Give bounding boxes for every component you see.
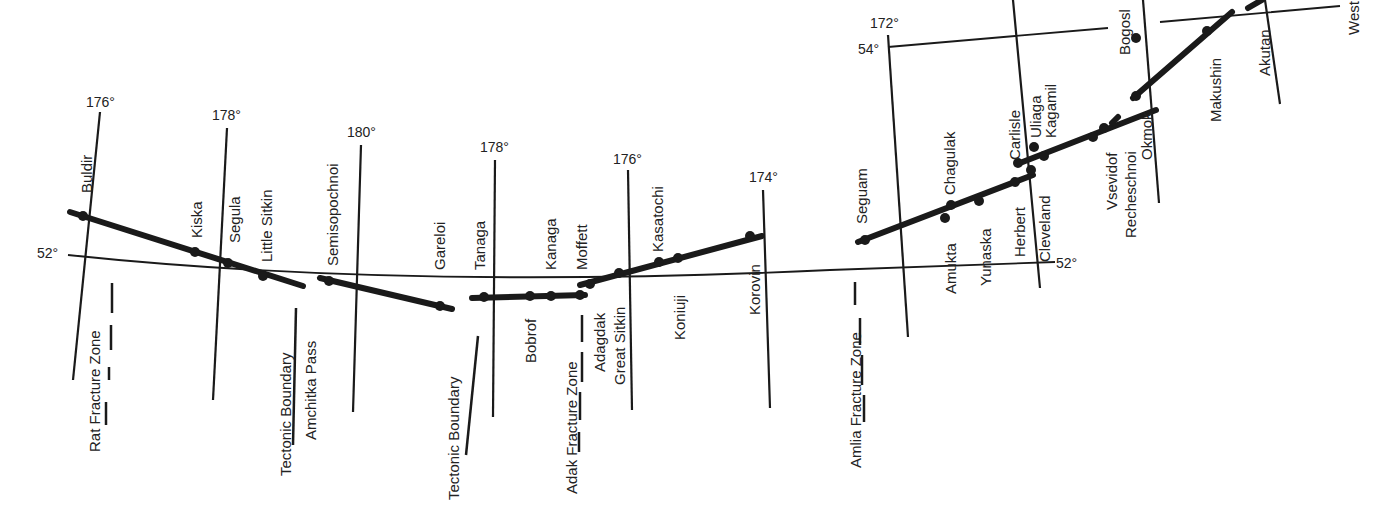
island-bogoslof: Bogosl: [1116, 9, 1133, 55]
island-makushin: Makushin: [1207, 58, 1224, 122]
island-okmok: Okmok: [1138, 112, 1155, 160]
island-carlisle: Carlisle: [1006, 110, 1023, 160]
svg-text:Tectonic Boundary: Tectonic Boundary: [277, 352, 294, 476]
island-moffett: Moffett: [573, 224, 590, 270]
island-vsevidof: Vsevidof: [1103, 152, 1120, 210]
aleutian-map: 176° 178° 180° 178° 176° 174° 172° 52° 5…: [0, 0, 1392, 521]
island-little-sitkin: Little Sitkin: [258, 189, 275, 262]
meridian-176e: [628, 170, 632, 410]
tectonic-boundary-adak: Tectonic Boundary: [445, 336, 478, 500]
arc-segment-delarof: [320, 278, 452, 309]
svg-text:Rat Fracture Zone: Rat Fracture Zone: [86, 330, 103, 452]
meridian-174e: [763, 190, 770, 408]
island-seguam: Seguam: [853, 168, 870, 224]
island-akutan: Akutan: [1256, 29, 1273, 76]
island-buldir: Buldir: [78, 155, 95, 193]
island-herbert: Herbert: [1011, 206, 1028, 257]
lat-label-54: 54°: [858, 41, 879, 57]
arc-dash: [1112, 117, 1118, 123]
tectonic-boundary-amchitka: Tectonic Boundary: [277, 308, 296, 476]
island-korovin: Korovin: [746, 264, 763, 315]
lat-label-52-west: 52°: [37, 245, 58, 261]
rat-fracture-zone: Rat Fracture Zone: [86, 283, 112, 452]
arc-segment-akutan: [1248, 0, 1262, 8]
amchitka-pass-label: Amchitka Pass: [302, 341, 319, 440]
island-gareloi: Gareloi: [431, 222, 448, 270]
lon-label-176e: 176°: [613, 151, 642, 167]
meridian-180: [353, 145, 361, 412]
lon-label-180: 180°: [347, 124, 376, 140]
island-kiska: Kiska: [188, 201, 205, 238]
meridian-178e: [493, 160, 495, 417]
amlia-fracture-zone: Amlia Fracture Zone: [847, 282, 864, 468]
island-adagdak: Adagdak: [591, 312, 608, 372]
adak-fracture-zone: Adak Fracture Zone: [563, 315, 582, 494]
island-segula: Segula: [226, 196, 243, 243]
lon-label-174e: 174°: [749, 169, 778, 185]
island-amukta: Amukta: [942, 242, 959, 294]
meridian-172e: [888, 35, 908, 337]
island-yunaska: Yunaska: [977, 228, 994, 286]
svg-text:Tectonic Boundary: Tectonic Boundary: [445, 376, 462, 500]
island-westdahl: West: [1345, 0, 1362, 35]
island-tanaga: Tanaga: [471, 220, 488, 270]
lon-label-176w: 176°: [86, 94, 115, 110]
island-cleveland: Cleveland: [1036, 195, 1053, 262]
island-kasatochi: Kasatochi: [649, 186, 666, 252]
island-chagulak: Chagulak: [941, 131, 958, 195]
island-great-sitkin: Great Sitkin: [611, 307, 628, 385]
island-kagamil: Kagamil: [1042, 84, 1059, 138]
island-kanaga: Kanaga: [542, 218, 559, 270]
lon-label-178w: 178°: [212, 107, 241, 123]
meridian-168: [1143, 0, 1159, 203]
svg-text:Amlia Fracture Zone: Amlia Fracture Zone: [847, 332, 864, 468]
island-recheschnoi: Recheschnoi: [1122, 151, 1139, 238]
island-bobrof: Bobrof: [522, 318, 539, 363]
island-semisopochnoi: Semisopochnoi: [324, 163, 341, 266]
arc-segment-andreanof-e: [580, 236, 762, 285]
island-koniuji: Koniuji: [671, 295, 688, 340]
lat-label-52-east: 52°: [1056, 255, 1077, 271]
lon-label-178e: 178°: [480, 139, 509, 155]
island-labels: Buldir Kiska Segula Little Sitkin Semiso…: [78, 0, 1362, 385]
svg-text:Adak Fracture Zone: Adak Fracture Zone: [563, 361, 580, 494]
lon-label-172e: 172°: [870, 15, 899, 31]
